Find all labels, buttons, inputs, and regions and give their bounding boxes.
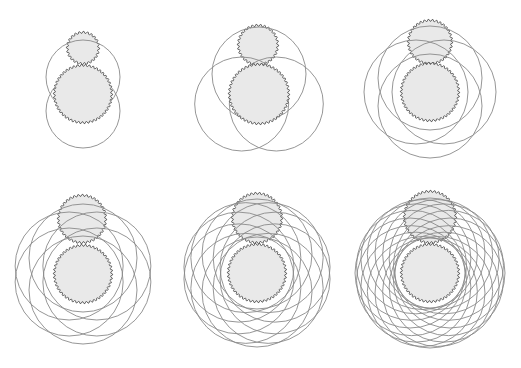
small-gear-icon (66, 31, 99, 64)
gear-orbit-figure (0, 0, 521, 368)
